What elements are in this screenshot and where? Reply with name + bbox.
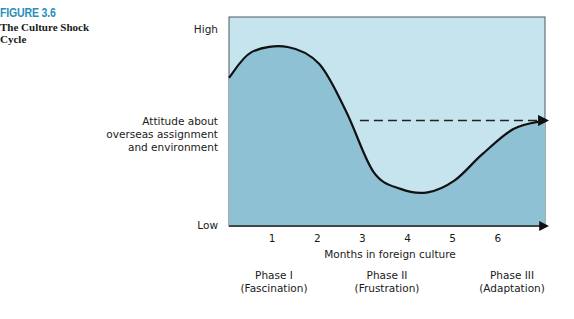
phase-description: (Fascination) bbox=[240, 282, 307, 294]
x-tick-label: 3 bbox=[359, 232, 366, 244]
y-axis-label-line-2: overseas assignment bbox=[106, 128, 218, 140]
x-tick-label: 6 bbox=[495, 232, 502, 244]
y-axis-label-line-1: Attitude about bbox=[142, 115, 218, 127]
y-tick-low: Low bbox=[197, 219, 218, 231]
phase-name: Phase II bbox=[367, 269, 408, 281]
culture-shock-chart: High Low Attitude about overseas assignm… bbox=[0, 0, 574, 319]
y-axis-label-line-3: and environment bbox=[128, 141, 218, 153]
x-tick-label: 1 bbox=[269, 232, 276, 244]
x-tick-label: 2 bbox=[314, 232, 321, 244]
phase-description: (Frustration) bbox=[355, 282, 420, 294]
phase-name: Phase III bbox=[490, 269, 534, 281]
phase-description: (Adaptation) bbox=[479, 282, 545, 294]
y-tick-high: High bbox=[194, 23, 218, 35]
x-tick-label: 5 bbox=[449, 232, 456, 244]
phase-name: Phase I bbox=[255, 269, 293, 281]
x-tick-label: 4 bbox=[404, 232, 411, 244]
x-axis-label: Months in foreign culture bbox=[324, 248, 456, 260]
